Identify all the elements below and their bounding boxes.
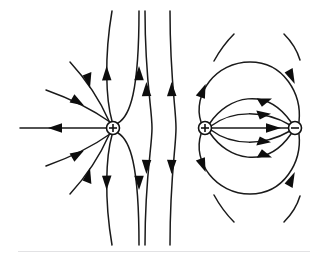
arrowhead-left-upper-3 bbox=[102, 66, 112, 81]
fieldline-separatrix-outer-left bbox=[145, 11, 152, 245]
fieldline-left-upper-2 bbox=[70, 62, 109, 121]
fieldline-dipole-escape-lower-right bbox=[284, 196, 300, 222]
fieldline-dipole-escape-upper-left bbox=[214, 34, 234, 61]
arrowhead-left-lower-2 bbox=[83, 168, 92, 184]
footer-divider bbox=[18, 251, 310, 252]
arrowhead-separatrix-outer-right-upper bbox=[167, 82, 177, 96]
fieldline-dipole-loop-upper-inner bbox=[211, 114, 290, 126]
arrowhead-left-horizontal bbox=[48, 123, 62, 133]
fieldline-left-lower-3 bbox=[107, 135, 112, 245]
charge-dipole-positive[interactable] bbox=[199, 122, 212, 135]
fieldline-separatrix-outer-right bbox=[170, 11, 176, 245]
arrowhead-separatrix-outer-left-upper bbox=[142, 82, 152, 96]
charge-dipole-negative[interactable] bbox=[289, 122, 302, 135]
arrowhead-left-lower-1 bbox=[70, 151, 84, 162]
arrowhead-dipole-arc-lower-right bbox=[285, 172, 295, 188]
arrowhead-dipole-loop-lower-inner bbox=[256, 136, 271, 145]
fieldline-dipole-escape-upper-right bbox=[284, 34, 300, 60]
arrowhead-left-upper-1 bbox=[70, 94, 84, 105]
arrowhead-separatrix-outer-left-lower bbox=[142, 160, 152, 174]
arrowhead-left-lower-3 bbox=[102, 176, 112, 191]
left-charge-field-lines bbox=[20, 11, 113, 245]
fieldline-left-upper-3 bbox=[107, 11, 112, 121]
fieldline-dipole-loop-lower-inner bbox=[211, 130, 290, 142]
field-line-canvas bbox=[0, 0, 322, 258]
fieldline-separatrix-inner-upper bbox=[118, 11, 139, 123]
fieldline-left-lower-1 bbox=[46, 134, 110, 166]
arrowhead-left-upper-2 bbox=[83, 72, 92, 88]
arrowhead-separatrix-outer-right-lower bbox=[167, 160, 177, 174]
fieldline-left-lower-2 bbox=[70, 135, 109, 194]
fieldline-separatrix-inner-lower bbox=[118, 133, 139, 245]
arrowhead-dipole-loop-upper-inner bbox=[256, 111, 271, 120]
charge-left-positive[interactable] bbox=[107, 122, 120, 135]
fieldline-left-upper-1 bbox=[46, 90, 110, 122]
field-line-figure bbox=[0, 0, 322, 258]
arrowhead-dipole-arc-lower-left bbox=[196, 157, 206, 172]
arrowhead-dipole-arc-upper-right bbox=[285, 68, 295, 84]
arrowhead-dipole-arc-upper-left bbox=[196, 84, 206, 99]
fieldline-dipole-escape-lower-left bbox=[214, 195, 234, 222]
separatrix-field-lines bbox=[118, 11, 177, 245]
arrowhead-dipole-axis bbox=[266, 123, 281, 133]
